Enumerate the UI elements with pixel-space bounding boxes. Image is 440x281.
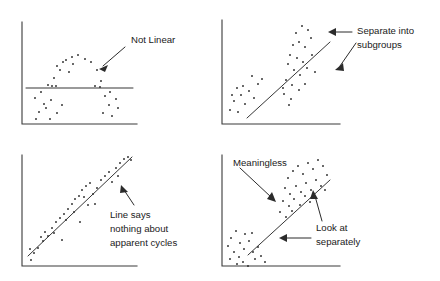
data-point [242,85,244,87]
data-point [40,236,42,238]
data-point [296,57,298,59]
data-point [300,191,302,193]
data-point [287,63,289,65]
data-point [227,245,229,247]
data-point [260,255,262,257]
data-point [94,203,96,205]
data-point [49,118,51,120]
data-point [71,56,73,58]
data-point [78,195,80,197]
data-point [61,104,63,106]
data-point [85,185,87,187]
data-point [45,107,47,109]
data-point [233,251,235,253]
data-point [84,58,86,60]
data-point [115,98,117,100]
data-point [292,44,294,46]
data-point [111,115,113,117]
data-point [288,205,290,207]
data-point [326,174,328,176]
data-point [51,227,53,229]
data-point [100,179,102,181]
data-point [309,201,311,203]
data-point [63,213,65,215]
data-point [251,75,253,77]
data-point [87,204,89,206]
data-point [34,97,36,99]
data-point [96,69,98,71]
callout-nothing-about: nothing about [110,223,168,234]
data-point [72,63,74,65]
data-point [292,170,294,172]
data-point [242,261,244,263]
data-point [108,171,110,173]
data-point [297,165,299,167]
data-point [322,165,324,167]
data-point [77,54,79,56]
data-point [233,100,235,102]
data-point [244,233,246,235]
data-point [130,159,132,161]
data-point [117,107,119,109]
data-point [244,103,246,105]
data-point [293,198,295,200]
data-point [56,112,58,114]
callout-not-linear: Not Linear [131,34,176,45]
data-point [102,112,104,114]
data-point [62,61,64,63]
data-point [109,91,111,93]
data-point [108,104,110,106]
data-point [299,74,301,76]
data-point [59,217,61,219]
data-point [243,248,245,250]
data-point [311,54,313,56]
figure-root: Not Linear Separate into subgroups [0,0,440,281]
data-point [229,258,231,260]
callout-meaningless: Meaningless [233,157,287,168]
data-point [283,93,285,95]
data-point [238,256,240,258]
data-point [240,94,242,96]
data-point [104,175,106,177]
data-point [248,90,250,92]
data-point [304,195,306,197]
data-point [83,196,85,198]
data-point [306,67,308,69]
data-point [253,97,255,99]
data-point [310,37,312,39]
data-point [291,210,293,212]
callout-separately: separately [316,236,360,247]
data-point [38,111,40,113]
data-point [295,185,297,187]
data-point [53,77,55,79]
data-point [33,252,35,254]
scatterplot-figure: Not Linear Separate into subgroups [0,0,440,281]
data-point [47,84,49,86]
callout-line-says: Line says [110,209,151,220]
callout-apparent-cycles: apparent cycles [110,237,177,248]
data-point [235,230,237,232]
data-point [55,85,57,87]
data-point [324,189,326,191]
data-point [127,156,129,158]
data-point [56,65,58,67]
data-point [291,84,293,86]
data-point [35,118,37,120]
data-point [43,103,45,105]
data-point [289,193,291,195]
data-point [65,59,67,61]
data-point [305,182,307,184]
data-point [89,182,91,184]
data-point [251,232,253,234]
data-point [261,78,263,80]
data-point [279,211,281,213]
data-point [237,111,239,113]
data-point [282,200,284,202]
data-point [264,261,266,263]
data-point [94,85,96,87]
data-point [44,231,46,233]
data-point [307,29,309,31]
data-point [248,240,250,242]
data-point [71,203,73,205]
data-point [230,237,232,239]
